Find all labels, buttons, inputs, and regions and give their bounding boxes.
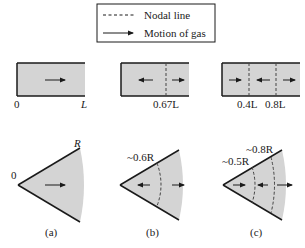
duct-a-left-label: 0 <box>14 98 20 110</box>
caption-c: (c) <box>250 226 263 239</box>
sector-a-apex-label: 0 <box>11 169 17 181</box>
caption-a: (a) <box>45 226 58 239</box>
legend-label-motion: Motion of gas <box>144 27 206 39</box>
duct-b: 0.67L <box>121 63 189 110</box>
duct-c-node-label-1: 0.4L <box>237 98 258 110</box>
acoustic-modes-diagram: Nodal line Motion of gas 0 L 0.67L 0.4L <box>0 0 305 248</box>
sector-c-node-label-2: ~0.8R <box>246 143 274 155</box>
sector-b: ~0.6R (b) <box>120 150 184 239</box>
legend-label-nodal: Nodal line <box>144 9 190 21</box>
caption-b: (b) <box>146 226 159 239</box>
sector-c: ~0.5R ~0.8R (c) <box>222 143 292 239</box>
duct-a: 0 L <box>14 63 87 110</box>
sector-a: 0 R (a) <box>11 137 84 239</box>
sector-b-node-label: ~0.6R <box>127 151 155 163</box>
sector-a-radius-label: R <box>73 137 81 149</box>
duct-a-right-label: L <box>80 98 87 110</box>
sector-c-node-label-1: ~0.5R <box>222 155 250 167</box>
duct-c: 0.4L 0.8L <box>222 63 300 110</box>
duct-b-node-label: 0.67L <box>153 98 179 110</box>
duct-c-node-label-2: 0.8L <box>265 98 286 110</box>
legend: Nodal line Motion of gas <box>97 4 215 42</box>
